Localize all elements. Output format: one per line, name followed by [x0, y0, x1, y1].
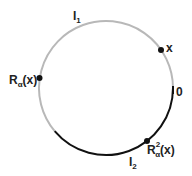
label-i1: I1 [73, 9, 81, 25]
label-r-alpha-x: Rα(x) [9, 73, 37, 89]
label-zero: 0 [176, 85, 183, 99]
label-i2: I2 [129, 155, 137, 171]
label-r-alpha2-x: R2α(x) [147, 140, 175, 159]
label-x: x [166, 41, 173, 55]
circle-rotation-diagram: I1 I2 x 0 Rα(x) R2α(x) [0, 0, 192, 176]
point-x [158, 47, 164, 53]
arc-i1 [39, 21, 173, 131]
point-r-alpha-x [37, 75, 43, 81]
